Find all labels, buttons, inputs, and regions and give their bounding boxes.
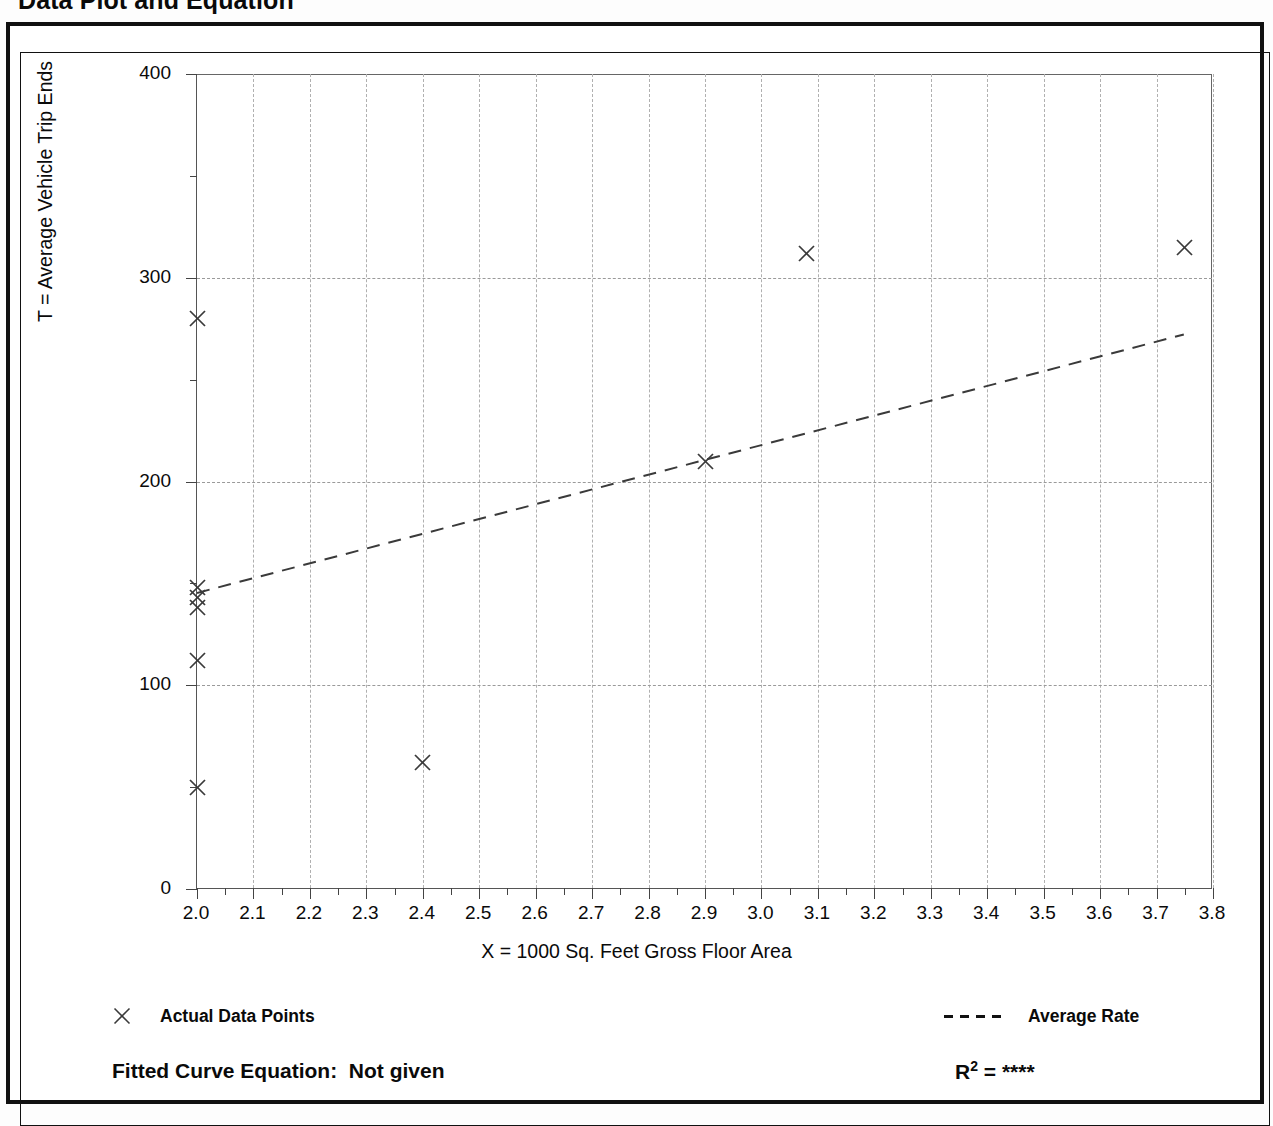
- x-marker-icon: [112, 1006, 132, 1026]
- gridline-vertical: [1213, 74, 1214, 888]
- x-axis-tick: [536, 888, 537, 899]
- y-axis-tick: [186, 889, 197, 890]
- x-axis-tick-minor: [620, 888, 621, 895]
- y-axis-tick-label: 300: [81, 266, 171, 288]
- fitted-curve-equation-value: Not given: [349, 1059, 445, 1082]
- x-axis-title: X = 1000 Sq. Feet Gross Floor Area: [0, 940, 1273, 963]
- x-axis-tick-minor: [507, 888, 508, 895]
- r-squared-stars: ****: [1002, 1060, 1035, 1083]
- r-squared-value: R2 = ****: [955, 1058, 1035, 1084]
- x-axis-tick-minor: [282, 888, 283, 895]
- x-axis-tick-minor: [1128, 888, 1129, 895]
- y-axis-tick-label: 400: [81, 62, 171, 84]
- page-title: Data Plot and Equation: [18, 0, 294, 15]
- y-axis-tick: [186, 685, 197, 686]
- data-point-marker: [188, 598, 207, 617]
- plot-area: [196, 74, 1212, 889]
- x-axis-tick-minor: [959, 888, 960, 895]
- legend-item-actual-data-points: Actual Data Points: [112, 1005, 315, 1027]
- x-axis-tick-minor: [677, 888, 678, 895]
- x-axis-tick: [366, 888, 367, 899]
- data-point-marker: [797, 244, 816, 263]
- x-axis-tick: [1213, 888, 1214, 899]
- r-squared-equals: =: [984, 1060, 996, 1083]
- y-axis-title: T = Average Vehicle Trip Ends: [34, 262, 57, 292]
- x-axis-tick: [197, 888, 198, 899]
- x-axis-tick: [705, 888, 706, 899]
- dashed-line-icon: [944, 1015, 1006, 1018]
- average-rate-line: [197, 334, 1184, 592]
- y-axis-tick: [186, 74, 197, 75]
- x-axis-tick: [987, 888, 988, 899]
- y-axis-tick-minor: [190, 380, 197, 381]
- legend-label-actual-data-points: Actual Data Points: [160, 1006, 315, 1026]
- x-axis-tick: [1044, 888, 1045, 899]
- data-point-marker: [188, 778, 207, 797]
- x-axis-tick-minor: [790, 888, 791, 895]
- y-axis-title-label: T = Average Vehicle Trip Ends: [34, 292, 57, 322]
- y-axis-tick: [186, 278, 197, 279]
- y-axis-tick-minor: [190, 176, 197, 177]
- data-point-marker: [1175, 238, 1194, 257]
- fitted-curve-equation-label: Fitted Curve Equation:: [112, 1059, 337, 1082]
- y-axis-tick-label: 100: [81, 673, 171, 695]
- data-point-marker: [188, 309, 207, 328]
- average-rate-trendline: [197, 74, 1212, 888]
- x-axis-tick: [874, 888, 875, 899]
- x-axis-tick-label: 3.8: [1177, 902, 1247, 924]
- y-axis-tick-label: 0: [81, 877, 171, 899]
- x-axis-tick-minor: [564, 888, 565, 895]
- x-axis-tick-minor: [846, 888, 847, 895]
- x-axis-tick: [310, 888, 311, 899]
- legend-item-average-rate: Average Rate: [944, 1005, 1139, 1027]
- fitted-curve-equation: Fitted Curve Equation: Not given: [112, 1059, 445, 1083]
- x-axis-tick-minor: [338, 888, 339, 895]
- x-axis-tick-minor: [903, 888, 904, 895]
- y-axis-tick: [186, 482, 197, 483]
- x-axis-tick: [479, 888, 480, 899]
- x-axis-tick-minor: [733, 888, 734, 895]
- x-axis-tick-minor: [1072, 888, 1073, 895]
- x-axis-tick: [1157, 888, 1158, 899]
- x-axis-tick: [592, 888, 593, 899]
- r-squared-label: R: [955, 1060, 970, 1083]
- x-axis-tick: [931, 888, 932, 899]
- data-point-marker: [696, 452, 715, 471]
- x-axis-tick: [649, 888, 650, 899]
- r-squared-exponent: 2: [970, 1058, 978, 1074]
- x-axis-tick-minor: [1015, 888, 1016, 895]
- x-axis-tick: [761, 888, 762, 899]
- x-axis-tick: [253, 888, 254, 899]
- data-point-marker: [413, 753, 432, 772]
- x-axis-tick: [818, 888, 819, 899]
- data-point-marker: [188, 651, 207, 670]
- x-axis-tick: [1100, 888, 1101, 899]
- x-axis-tick-minor: [1185, 888, 1186, 895]
- x-axis-tick-minor: [451, 888, 452, 895]
- y-axis-tick-label: 200: [81, 470, 171, 492]
- x-axis-tick: [423, 888, 424, 899]
- x-axis-tick-minor: [225, 888, 226, 895]
- legend-label-average-rate: Average Rate: [1028, 1006, 1139, 1026]
- x-axis-tick-minor: [395, 888, 396, 895]
